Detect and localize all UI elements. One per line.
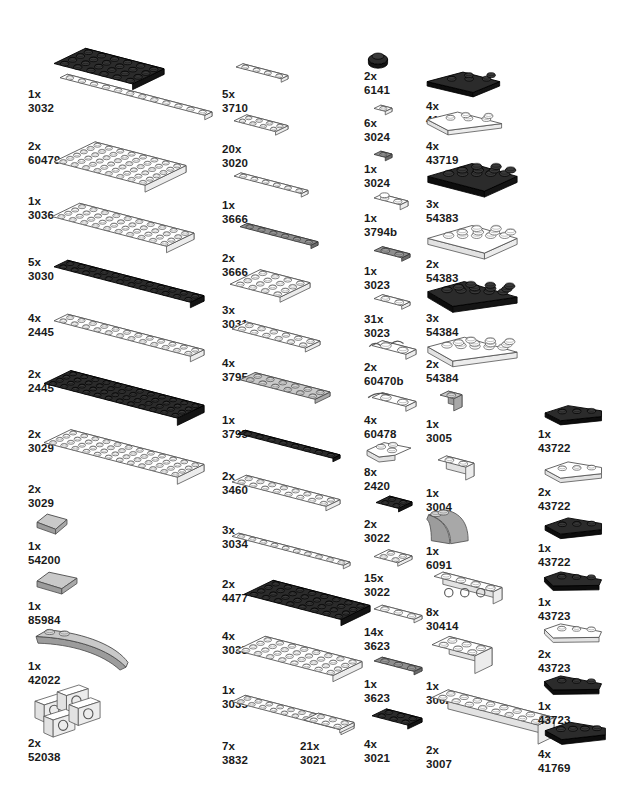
part-number: 43722 [538, 442, 570, 456]
part-number: 52038 [28, 751, 60, 765]
part-quantity: 2x [538, 648, 570, 662]
part-label-3024: 6x3024 [364, 117, 390, 144]
part-number: 41769 [538, 762, 570, 776]
part-quantity: 2x [426, 258, 458, 272]
part-number: 54200 [28, 554, 60, 568]
part-image-2420 [364, 436, 414, 466]
part-label-43722: 2x43722 [538, 486, 570, 513]
part-image-85984 [34, 568, 80, 598]
part-number: 3024 [364, 177, 390, 191]
part-image-43722 [542, 458, 604, 486]
part-quantity: 4x [364, 414, 396, 428]
part-number: 3029 [28, 497, 54, 511]
part-quantity: 31x [364, 313, 390, 327]
part-number: 3794b [364, 226, 397, 240]
part-image-3035 [228, 630, 362, 686]
part-image-6091 [424, 508, 470, 546]
part-label-3022: 2x3022 [364, 518, 390, 545]
part-quantity: 14x [364, 626, 390, 640]
part-quantity: 1x [538, 700, 570, 714]
part-quantity: 1x [426, 545, 452, 559]
part-quantity: 4x [426, 140, 458, 154]
part-image-3023 [366, 290, 410, 312]
part-quantity: 2x [538, 486, 570, 500]
part-image-3022 [368, 488, 412, 518]
part-quantity: 3x [222, 304, 248, 318]
part-image-3795 [232, 368, 330, 406]
part-label-3832: 7x3832 [222, 740, 248, 767]
part-label-3021: 4x3021 [364, 738, 390, 765]
part-image-3029 [36, 364, 204, 430]
part-quantity: 2x [28, 737, 60, 751]
part-label-54384: 2x54384 [426, 358, 458, 385]
part-label-3021: 21x3021 [300, 740, 326, 767]
part-label-3623: 14x3623 [364, 626, 390, 653]
part-label-3022: 15x3022 [364, 572, 390, 599]
part-image-3035 [236, 574, 370, 630]
part-image-52038 [32, 678, 106, 736]
part-number: 3022 [364, 586, 390, 600]
part-label-3029: 2x3029 [28, 483, 54, 510]
part-image-3034 [224, 472, 340, 512]
part-image-43722 [542, 402, 604, 428]
part-image-3460 [230, 430, 340, 460]
part-image-4477 [224, 534, 350, 566]
part-label-43723: 2x43723 [538, 648, 570, 675]
part-image-2445 [46, 312, 204, 362]
part-label-85984: 1x85984 [28, 600, 60, 627]
part-quantity: 1x [364, 163, 390, 177]
part-image-3036 [46, 135, 186, 197]
part-image-30414 [426, 568, 502, 606]
part-quantity: 1x [364, 678, 390, 692]
part-label-3032: 1x3032 [28, 88, 54, 115]
part-label-6141: 2x6141 [364, 70, 390, 97]
part-quantity: 1x [538, 542, 570, 556]
part-label-3023: 1x3023 [364, 265, 390, 292]
part-image-3031 [222, 262, 310, 308]
part-label-43723: 1x43723 [538, 596, 570, 623]
part-quantity: 1x [222, 199, 248, 213]
part-quantity: 6x [364, 117, 390, 131]
part-quantity: 1x [28, 540, 60, 554]
part-quantity: 2x [426, 744, 452, 758]
part-image-3004 [430, 448, 474, 486]
part-number: 3021 [300, 754, 326, 768]
part-image-3623 [366, 600, 422, 626]
part-label-43722: 1x43722 [538, 542, 570, 569]
part-quantity: 7x [222, 740, 248, 754]
part-image-3623 [366, 652, 422, 678]
part-quantity: 3x [426, 312, 458, 326]
part-quantity: 5x [222, 88, 248, 102]
part-number: 60470b [364, 375, 404, 389]
part-label-3024: 1x3024 [364, 163, 390, 190]
part-quantity: 1x [538, 428, 570, 442]
part-quantity: 20x [222, 143, 248, 157]
part-image-3005 [432, 382, 462, 418]
part-label-60470b: 2x60470b [364, 361, 404, 388]
part-number: 3623 [364, 640, 390, 654]
part-label-3020: 20x3020 [222, 143, 248, 170]
part-image-41770 [424, 68, 502, 102]
part-image-43719 [424, 108, 504, 142]
part-quantity: 2x [364, 70, 390, 84]
part-quantity: 21x [300, 740, 326, 754]
part-image-43723 [542, 620, 604, 648]
part-quantity: 1x [28, 88, 54, 102]
part-number: 3021 [364, 752, 390, 766]
part-image-2445 [46, 258, 204, 308]
part-image-41769 [542, 718, 608, 748]
part-quantity: 3x [426, 198, 458, 212]
part-image-3024 [366, 100, 392, 118]
part-number: 3020 [222, 157, 248, 171]
part-quantity: 4x [364, 738, 390, 752]
part-image-43722 [542, 514, 604, 542]
part-image-3710 [228, 60, 288, 84]
part-image-6141 [366, 52, 390, 70]
part-label-3007: 2x3007 [426, 744, 452, 771]
part-quantity: 1x [364, 212, 397, 226]
part-image-60470b [364, 336, 416, 362]
part-label-52038: 2x52038 [28, 737, 60, 764]
part-quantity: 15x [364, 572, 390, 586]
part-quantity: 1x [222, 414, 248, 428]
part-quantity: 2x [364, 518, 390, 532]
